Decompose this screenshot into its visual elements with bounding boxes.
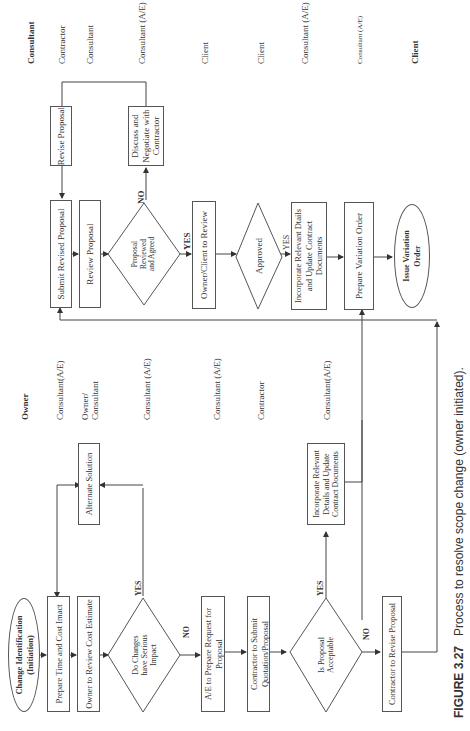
role-label: Consultant(A/E) xyxy=(322,361,332,421)
step-text: Review Proposal xyxy=(85,223,96,284)
figure-number: FIGURE 3.27 xyxy=(452,646,466,718)
decision-approved: Approved xyxy=(236,203,282,309)
incorporate-lower-box: Incorporate RelevantDetails and UpdateCo… xyxy=(307,443,345,525)
figure-caption: FIGURE 3.27 Process to resolve scope cha… xyxy=(452,367,466,718)
role-label: Consultant xyxy=(85,25,95,64)
step-text: Prepare Variation Order xyxy=(354,213,365,299)
role-label: Consultant(A/E) xyxy=(55,361,65,421)
step-text: Contractor to SubmitQuotation/Proposal xyxy=(248,618,269,690)
issue-variation-oval: Issue VariationOrder xyxy=(394,204,430,308)
decision-serious: Do Changeshave SeriousImpact xyxy=(108,598,180,712)
review-proposal-box: Review Proposal xyxy=(79,200,101,308)
change-identification-oval: Change Identification(Initiation) xyxy=(8,598,40,712)
step-text: Contractor to Revise Proposal xyxy=(387,603,398,705)
role-label: Consultant (A/E) xyxy=(300,2,310,64)
terminal-text: Change Identification(Initiation) xyxy=(14,615,35,694)
step-text: Submit Revised Proposal xyxy=(56,208,67,299)
decision-text: Do Changeshave SeriousImpact xyxy=(131,634,158,675)
role-label: Owner/ Consultant xyxy=(80,380,100,420)
figure-title: Process to resolve scope change (owner i… xyxy=(452,367,466,636)
decision-acceptable: Is ProposalAcceptable xyxy=(290,598,362,712)
decision-text: Approved xyxy=(254,238,265,274)
ae-prepare-box: A/E to Prepare Request forProposal xyxy=(201,596,225,712)
role-label: Consultant (A/E) xyxy=(212,358,222,420)
step-text: Owner to Review Cost Estimate xyxy=(83,599,94,709)
role-label: Client xyxy=(200,42,210,64)
step-text: Incorporate Relevant Dtailsand Update Co… xyxy=(293,209,325,303)
yes-label: YES xyxy=(182,232,192,250)
role-label: Contractor xyxy=(256,382,266,421)
role-label: Client xyxy=(410,41,420,65)
no-label: NO xyxy=(136,191,146,205)
step-text: Incorporate RelevantDetails and UpdateCo… xyxy=(312,450,341,517)
step-text: Owner/Client to Review xyxy=(199,211,210,299)
no-label: NO xyxy=(362,628,372,640)
owner-review-box: Owner/Client to Review xyxy=(192,201,216,309)
terminal-text: Issue VariationOrder xyxy=(402,230,423,281)
role-header-consultant: Consultant xyxy=(26,21,36,64)
decision-text: Is ProposalAcceptable xyxy=(317,637,335,673)
yes-label: YES xyxy=(316,580,326,596)
no-label: NO xyxy=(182,626,192,638)
owner-review-cost-box: Owner to Review Cost Estimate xyxy=(77,596,100,712)
role-header-owner: Owner xyxy=(20,394,30,421)
role-label: Client xyxy=(256,42,266,64)
step-text: Prepare Time and Cost Imact xyxy=(53,604,64,703)
contractor-submit-box: Contractor to SubmitQuotation/Proposal xyxy=(247,596,270,712)
role-label: Consultant (A/E) xyxy=(137,2,147,64)
incorporate-details-box: Incorporate Relevant Dtailsand Update Co… xyxy=(291,202,327,310)
decision-text: ProposalReviewedand Agreed xyxy=(131,237,157,271)
step-text: Revise Proposal xyxy=(56,107,67,165)
yes-label: YES xyxy=(134,580,144,596)
prepare-variation-box: Prepare Variation Order xyxy=(344,202,374,310)
decision-reviewed: ProposalReviewedand Agreed xyxy=(108,203,180,305)
step-text: Alternate Solution xyxy=(84,453,95,516)
role-label: Consultant (A/E) xyxy=(355,16,365,64)
revise-proposal-box: Revise Proposal xyxy=(50,106,72,166)
time-cost-box: Prepare Time and Cost Imact xyxy=(47,596,70,712)
discuss-negotiate-box: Discuss andNegotiate withContractor xyxy=(128,106,164,166)
submit-revised-box: Submit Revised Proposal xyxy=(50,200,72,308)
step-text: Discuss andNegotiate withContractor xyxy=(130,109,162,162)
role-label: Contractor xyxy=(57,26,67,65)
alternate-solution-box: Alternate Solution xyxy=(78,443,100,525)
step-text: A/E to Prepare Request forProposal xyxy=(203,608,224,700)
contractor-revise-box: Contractor to Revise Proposal xyxy=(382,596,402,712)
role-label: Consultant (A/E) xyxy=(142,358,152,420)
